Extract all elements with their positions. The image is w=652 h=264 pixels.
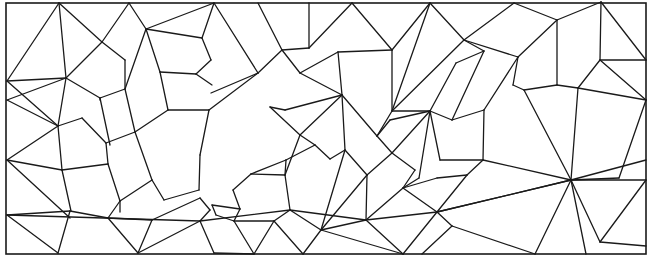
- mesh-edge: [233, 174, 251, 190]
- mesh-edge: [270, 107, 300, 135]
- mesh-edge: [430, 3, 464, 40]
- mesh-edge: [274, 221, 303, 254]
- mesh-edge: [464, 3, 514, 40]
- mesh-edge: [282, 48, 309, 50]
- mesh-edge: [209, 73, 258, 110]
- mesh-edge: [518, 20, 557, 57]
- mesh-diagram: [0, 0, 652, 264]
- mesh-edge: [464, 40, 518, 57]
- mesh-edge: [138, 220, 152, 253]
- mesh-edge: [403, 212, 437, 254]
- mesh-edge: [62, 164, 108, 170]
- mesh-edge: [146, 29, 202, 38]
- mesh-edge: [82, 118, 106, 143]
- mesh-edge: [535, 180, 571, 254]
- mesh-edge: [483, 160, 571, 180]
- mesh-edge: [7, 3, 59, 81]
- mesh-edge: [59, 3, 102, 42]
- mesh-edge: [106, 132, 135, 143]
- mesh-edge: [66, 42, 102, 78]
- mesh-edge: [600, 60, 646, 100]
- mesh-edge: [285, 135, 300, 175]
- mesh-edge: [106, 143, 108, 164]
- mesh-edge: [600, 242, 646, 246]
- mesh-edge: [338, 50, 392, 52]
- mesh-edge: [578, 88, 646, 100]
- mesh-edge: [392, 3, 430, 50]
- mesh-edge: [377, 120, 390, 136]
- mesh-edge: [7, 126, 58, 160]
- mesh-edge: [437, 180, 571, 212]
- mesh-edge: [108, 164, 120, 201]
- mesh-edge: [200, 110, 209, 155]
- mesh-edge: [366, 175, 367, 220]
- mesh-edge: [403, 188, 437, 212]
- mesh-edge: [452, 51, 484, 120]
- mesh-edge: [108, 201, 120, 218]
- mesh-edge: [524, 90, 571, 180]
- mesh-edge: [62, 170, 71, 211]
- mesh-edge: [557, 85, 578, 88]
- mesh-edge: [7, 160, 70, 218]
- mesh-edge: [377, 136, 392, 153]
- mesh-edge: [7, 211, 70, 215]
- mesh-edge: [59, 3, 66, 78]
- mesh-edge: [135, 132, 152, 180]
- mesh-edge: [102, 3, 129, 42]
- mesh-edge: [152, 180, 164, 200]
- mesh-edge: [234, 209, 240, 221]
- mesh-edge: [422, 226, 452, 254]
- mesh-edge: [392, 3, 430, 111]
- mesh-edge: [342, 95, 377, 136]
- mesh-edge: [146, 29, 160, 72]
- mesh-edge: [452, 226, 535, 254]
- mesh-edge: [321, 150, 345, 230]
- mesh-edge: [300, 135, 315, 145]
- mesh-edge: [390, 111, 430, 120]
- mesh-edge: [392, 153, 415, 170]
- mesh-edge: [571, 160, 646, 180]
- mesh-edge: [7, 215, 58, 253]
- mesh-edge: [524, 85, 557, 90]
- mesh-edge: [196, 60, 211, 74]
- mesh-edge: [200, 221, 214, 253]
- mesh-edges: [7, 2, 646, 254]
- mesh-edge: [152, 198, 200, 220]
- mesh-edge: [557, 2, 601, 20]
- mesh-edge: [7, 160, 62, 170]
- mesh-edge: [129, 3, 146, 29]
- mesh-edge: [430, 111, 440, 160]
- mesh-edge: [251, 160, 286, 174]
- mesh-edge: [342, 95, 345, 150]
- mesh-edge: [600, 2, 601, 60]
- mesh-edge: [600, 180, 646, 242]
- mesh-edge: [338, 52, 342, 95]
- mesh-edge: [234, 221, 254, 254]
- mesh-edge: [601, 2, 646, 60]
- mesh-edge: [212, 205, 216, 215]
- mesh-edge: [437, 175, 467, 178]
- mesh-edge: [125, 29, 146, 89]
- mesh-edge: [212, 205, 240, 209]
- mesh-edge: [285, 175, 290, 210]
- mesh-edge: [196, 74, 212, 85]
- mesh-edge: [282, 50, 300, 73]
- mesh-edge: [66, 78, 100, 98]
- mesh-edge: [102, 42, 125, 60]
- mesh-edge: [7, 215, 200, 221]
- mesh-edge: [483, 110, 484, 160]
- mesh-edge: [392, 40, 464, 111]
- mesh-edge: [366, 188, 403, 220]
- mesh-edge: [254, 221, 274, 254]
- mesh-edge: [199, 155, 200, 190]
- mesh-edge: [164, 190, 199, 200]
- mesh-edge: [467, 160, 483, 175]
- mesh-edge: [315, 145, 330, 159]
- mesh-edge: [300, 52, 338, 73]
- mesh-edge: [58, 126, 62, 170]
- mesh-edge: [345, 150, 367, 175]
- mesh-edge: [258, 50, 282, 73]
- mesh-edge: [571, 180, 586, 254]
- mesh-edge: [571, 88, 578, 180]
- mesh-edge: [571, 180, 600, 242]
